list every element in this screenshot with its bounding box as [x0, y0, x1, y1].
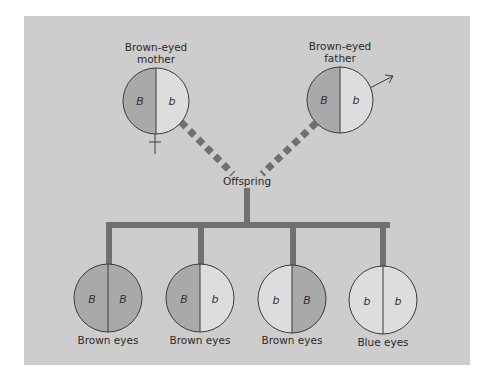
- mother-title: Brown-eyed mother: [125, 41, 188, 65]
- pedigree-diagram: [0, 0, 487, 380]
- offspring-label: Offspring: [223, 175, 271, 187]
- mother-right-allele: b: [169, 95, 176, 108]
- father-title-line2: father: [309, 52, 372, 64]
- mother-left-allele: B: [136, 95, 144, 108]
- offspring-2-phenotype: Brown eyes: [170, 334, 231, 346]
- offspring-4-phenotype: Blue eyes: [357, 336, 408, 348]
- father-genotype-circle: [307, 67, 373, 133]
- offspring-1-left-allele: B: [88, 293, 96, 306]
- offspring-3-phenotype: Brown eyes: [262, 334, 323, 346]
- male-symbol-icon: [370, 75, 393, 88]
- offspring-tree: [106, 188, 390, 268]
- father-title-line1: Brown-eyed: [309, 40, 372, 52]
- offspring-3-right-allele: B: [303, 294, 311, 307]
- offspring-circle-2: [166, 264, 234, 332]
- offspring-1-phenotype: Brown eyes: [78, 334, 139, 346]
- female-symbol-icon: [149, 134, 161, 154]
- father-left-allele: B: [320, 94, 328, 107]
- offspring-1-right-allele: B: [119, 293, 127, 306]
- mother-title-line1: Brown-eyed: [125, 41, 188, 53]
- offspring-circle-3: [258, 265, 326, 333]
- mother-connector-line: [181, 122, 233, 174]
- mother-title-line2: mother: [125, 53, 188, 65]
- offspring-4-right-allele: b: [395, 295, 402, 308]
- offspring-circle-1: [74, 264, 142, 332]
- offspring-2-left-allele: B: [180, 293, 188, 306]
- father-connector-line: [262, 123, 316, 174]
- offspring-4-left-allele: b: [364, 295, 371, 308]
- offspring-circle-4: [349, 266, 417, 334]
- offspring-2-right-allele: b: [212, 293, 219, 306]
- mother-genotype-circle: [123, 68, 189, 134]
- offspring-3-left-allele: b: [273, 294, 280, 307]
- father-title: Brown-eyed father: [309, 40, 372, 64]
- father-right-allele: b: [353, 94, 360, 107]
